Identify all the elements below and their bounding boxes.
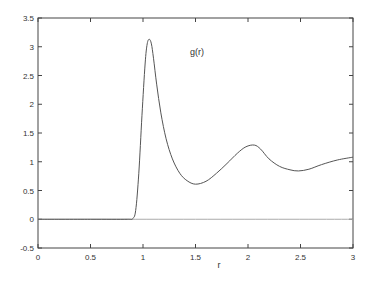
series-line-gr (38, 39, 353, 219)
x-tick-label: 0.5 (85, 253, 97, 262)
x-tick-label: 1 (141, 253, 146, 262)
y-tick-label: 0 (30, 215, 35, 224)
y-tick-label: -0.5 (20, 244, 34, 253)
x-axis-label: r (218, 260, 221, 270)
y-tick-label: 1 (30, 158, 35, 167)
y-tick-label: 0.5 (23, 187, 35, 196)
x-tick-label: 3 (351, 253, 356, 262)
axis-ticks: 00.511.522.53-0.500.511.522.533.5 (20, 14, 356, 262)
x-tick-label: 1.5 (190, 253, 202, 262)
y-tick-label: 1.5 (23, 129, 35, 138)
y-tick-label: 2 (30, 100, 35, 109)
y-tick-label: 3.5 (23, 14, 35, 23)
x-tick-label: 2.5 (295, 253, 307, 262)
x-tick-label: 2 (246, 253, 251, 262)
x-tick-label: 0 (36, 253, 41, 262)
gr-chart: 00.511.522.53-0.500.511.522.533.5 g(r) r (0, 0, 372, 281)
series-layer (38, 39, 353, 219)
y-tick-label: 3 (30, 43, 35, 52)
legend-label-gr: g(r) (190, 47, 204, 57)
y-tick-label: 2.5 (23, 72, 35, 81)
